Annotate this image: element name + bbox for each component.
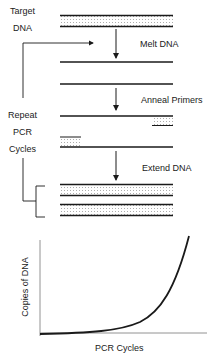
extend-dna-label: Extend DNA: [142, 163, 192, 173]
target-label: Target: [10, 6, 35, 16]
annealed-strand-bottom: [60, 137, 173, 147]
anneal-primers-label: Anneal Primers: [141, 95, 203, 105]
y-axis-label: Copies of DNA: [20, 257, 30, 317]
extended-double-strand-2: [60, 205, 173, 216]
melt-dna-label: Melt DNA: [140, 39, 179, 49]
pcr-label: PCR: [13, 127, 32, 137]
annealed-strand-top: [60, 116, 173, 126]
pcr-diagram: [0, 0, 214, 362]
copies-chart: [40, 236, 207, 336]
growth-curve: [40, 236, 189, 334]
repeat-label: Repeat: [8, 110, 37, 120]
cycles-label: Cycles: [9, 144, 36, 154]
target-dna-double-strand: [60, 16, 173, 27]
extended-double-strand-1: [60, 185, 173, 196]
x-axis-label: PCR Cycles: [95, 343, 144, 353]
dna-label: DNA: [13, 23, 32, 33]
